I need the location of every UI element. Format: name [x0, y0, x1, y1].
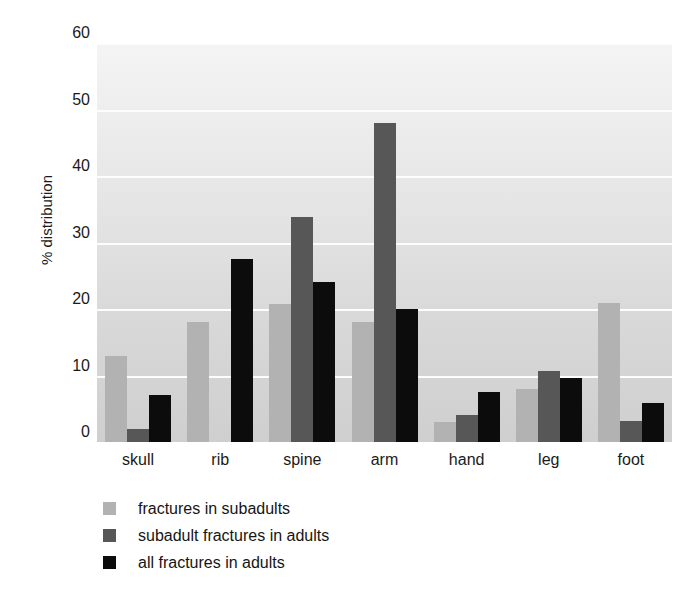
bar [374, 123, 396, 442]
y-tick-label: 60 [52, 23, 90, 43]
legend-swatch-icon [103, 502, 116, 515]
bar [434, 422, 456, 442]
x-tick-label: rib [211, 449, 229, 471]
x-tick-label: skull [122, 449, 154, 471]
bar [187, 322, 209, 442]
bar-group [434, 43, 500, 442]
bar-group [352, 43, 418, 442]
bar-series-container [97, 43, 672, 442]
legend-item: all fractures in adults [103, 549, 523, 576]
x-tick-label: spine [283, 449, 321, 471]
bar-group [105, 43, 171, 442]
bar-group [269, 43, 335, 442]
bar [313, 282, 335, 442]
legend-swatch-icon [103, 556, 116, 569]
bar [538, 371, 560, 442]
bar-group [187, 43, 253, 442]
x-tick-label: leg [538, 449, 559, 471]
y-tick-label: 20 [52, 289, 90, 309]
chart-figure: % distribution 0102030405060 skullribspi… [0, 0, 700, 597]
bar [560, 378, 582, 443]
bar [105, 356, 127, 442]
bar [352, 322, 374, 442]
legend-label: fractures in subadults [138, 500, 290, 518]
legend-item: subadult fractures in adults [103, 522, 523, 549]
x-tick-label: hand [449, 449, 485, 471]
bar [478, 392, 500, 442]
chart-legend: fractures in subadultssubadult fractures… [103, 495, 523, 576]
bar [291, 217, 313, 442]
bar [149, 395, 171, 442]
y-tick-label: 50 [52, 90, 90, 110]
legend-item: fractures in subadults [103, 495, 523, 522]
y-tick-label: 40 [52, 156, 90, 176]
bar [127, 429, 149, 442]
y-tick-label: 30 [52, 223, 90, 243]
bar-group [598, 43, 664, 442]
bar [456, 415, 478, 442]
x-axis-tick-labels: skullribspinearmhandlegfoot [97, 449, 672, 473]
y-tick-label: 10 [52, 356, 90, 376]
legend-label: all fractures in adults [138, 554, 285, 572]
plot-area [97, 43, 672, 442]
bar [516, 389, 538, 442]
y-axis-tick-labels: 0102030405060 [52, 33, 90, 453]
bar [598, 303, 620, 442]
bar [396, 309, 418, 442]
legend-swatch-icon [103, 529, 116, 542]
legend-label: subadult fractures in adults [138, 527, 329, 545]
bar-group [516, 43, 582, 442]
x-tick-label: foot [618, 449, 645, 471]
bar [269, 304, 291, 442]
y-tick-label: 0 [52, 422, 90, 442]
bar [231, 259, 253, 442]
x-tick-label: arm [371, 449, 399, 471]
bar [642, 403, 664, 442]
bar [620, 421, 642, 442]
